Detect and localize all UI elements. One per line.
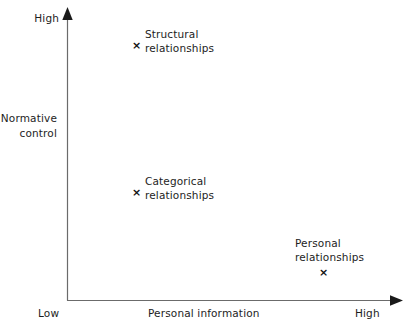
data-point-label-categorical: Categorical relationships bbox=[145, 174, 214, 202]
data-point-label-line-2: relationships bbox=[145, 41, 214, 55]
data-point-label-line-2: relationships bbox=[295, 250, 364, 264]
data-point-label-personal: Personal relationships bbox=[295, 236, 364, 264]
y-axis-title-line-2: control bbox=[1, 126, 57, 141]
x-axis-title: Personal information bbox=[148, 306, 260, 320]
cross-marker-icon: × bbox=[131, 40, 142, 51]
data-point-label-line-1: Personal bbox=[295, 236, 364, 250]
y-axis-high-label: High bbox=[34, 11, 59, 25]
cross-marker-icon: × bbox=[131, 187, 142, 198]
y-axis-title: Normative control bbox=[1, 111, 57, 141]
y-axis-arrowhead bbox=[62, 7, 72, 20]
data-point-label-structural: Structural relationships bbox=[145, 27, 214, 55]
x-axis-arrowhead bbox=[390, 295, 403, 305]
data-point-label-line-2: relationships bbox=[145, 188, 214, 202]
data-point-label-line-1: Structural bbox=[145, 27, 214, 41]
y-axis-title-line-1: Normative bbox=[1, 111, 57, 126]
x-axis-high-label: High bbox=[355, 306, 380, 320]
cross-marker-icon: × bbox=[318, 267, 329, 278]
chart-canvas: High Normative control Low Personal info… bbox=[0, 0, 410, 329]
data-point-label-line-1: Categorical bbox=[145, 174, 214, 188]
x-axis-low-label: Low bbox=[38, 306, 59, 320]
